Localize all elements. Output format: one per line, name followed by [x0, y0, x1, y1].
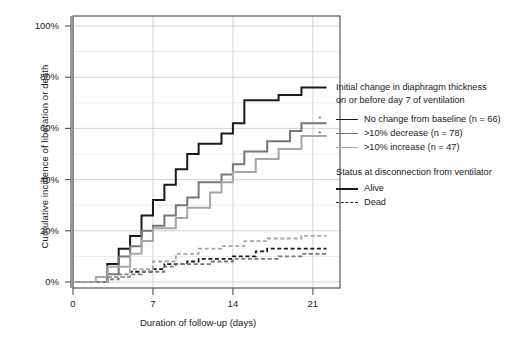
- legend-swatch-icon: [336, 184, 358, 193]
- y-tick-label: 80%: [19, 72, 59, 82]
- annotation-asterisk: *: [318, 114, 321, 123]
- x-tick-label: 0: [58, 299, 88, 309]
- legend-group1-title-line2: on or before day 7 of ventilation: [336, 94, 531, 107]
- plot-background: [73, 16, 340, 288]
- legend-item[interactable]: No change from baseline (n = 66): [336, 112, 531, 126]
- legend-item[interactable]: >10% decrease (n = 78): [336, 126, 531, 140]
- legend-item-label: >10% increase (n = 47): [364, 141, 460, 154]
- y-tick-label: 100%: [19, 21, 59, 31]
- x-tick-label: 7: [138, 299, 168, 309]
- x-axis-title: Duration of follow-up (days): [73, 317, 323, 328]
- legend-item-label: >10% decrease (n = 78): [364, 127, 463, 140]
- legend-swatch-icon: [336, 198, 358, 207]
- legend-group2-title: Status at disconnection from ventilator: [336, 166, 531, 179]
- legend-group1-items: No change from baseline (n = 66)>10% dec…: [336, 112, 531, 154]
- legend-group2-items: AliveDead: [336, 182, 531, 210]
- legend-item-label: Dead: [364, 196, 386, 209]
- legend-item-label: No change from baseline (n = 66): [364, 113, 501, 126]
- legend-item[interactable]: Alive: [336, 182, 531, 196]
- legend-swatch-icon: [336, 129, 358, 138]
- legend-item-label: Alive: [364, 182, 384, 195]
- legend-group1-title: Initial change in diaphragm thickness on…: [336, 81, 531, 106]
- legend-group1-title-line1: Initial change in diaphragm thickness: [336, 81, 531, 94]
- annotation-asterisk: *: [318, 129, 321, 138]
- legend-swatch-icon: [336, 115, 358, 124]
- chart-legend: Initial change in diaphragm thickness on…: [336, 81, 531, 210]
- legend-item[interactable]: Dead: [336, 196, 531, 210]
- figure: ** Cumulative incidence of liberation or…: [0, 0, 531, 348]
- x-tick-label: 14: [218, 299, 248, 309]
- y-tick-label: 20%: [19, 226, 59, 236]
- x-tick-label: 21: [298, 299, 328, 309]
- legend-swatch-icon: [336, 143, 358, 152]
- y-tick-label: 0%: [19, 277, 59, 287]
- legend-item[interactable]: >10% increase (n = 47): [336, 140, 531, 154]
- y-tick-label: 60%: [19, 123, 59, 133]
- y-axis-title: Cumulative incidence of liberation or de…: [39, 27, 50, 287]
- y-tick-label: 40%: [19, 175, 59, 185]
